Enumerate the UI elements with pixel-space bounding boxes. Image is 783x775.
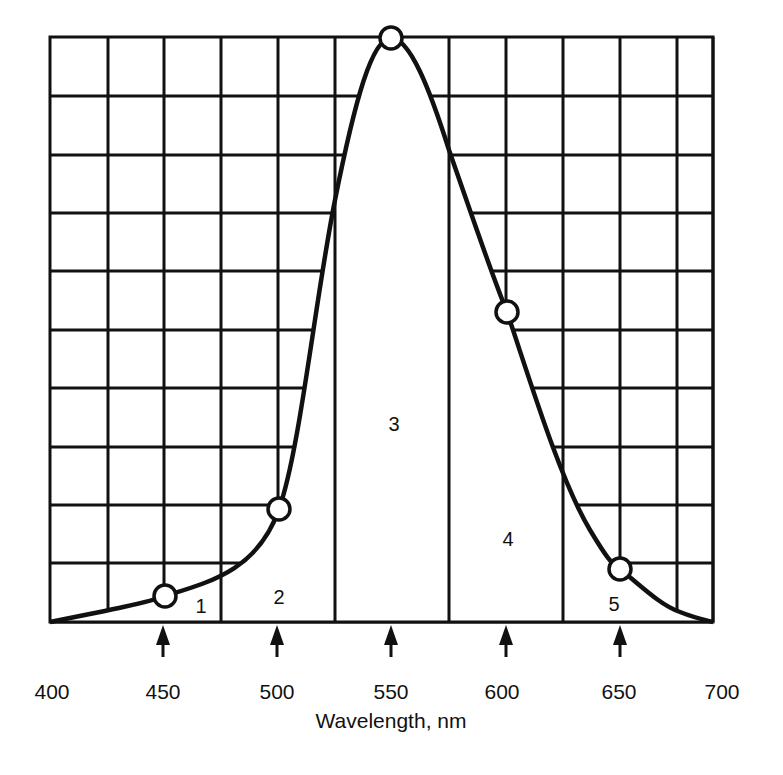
arrow-up-icon bbox=[156, 625, 170, 657]
x-tick-600: 600 bbox=[484, 680, 519, 704]
x-tick-700: 700 bbox=[704, 680, 739, 704]
region-label-4: 4 bbox=[502, 528, 513, 551]
marker-450 bbox=[154, 585, 176, 607]
x-tick-650: 650 bbox=[601, 680, 636, 704]
x-tick-550: 550 bbox=[373, 680, 408, 704]
marker-550 bbox=[380, 27, 402, 49]
region-label-5: 5 bbox=[608, 593, 619, 616]
arrow-up-icon bbox=[499, 625, 513, 657]
region-label-3: 3 bbox=[388, 413, 399, 436]
marker-500 bbox=[268, 498, 290, 520]
x-tick-400: 400 bbox=[34, 680, 69, 704]
marker-650 bbox=[609, 558, 631, 580]
region-label-1: 1 bbox=[195, 595, 206, 618]
marker-600 bbox=[496, 301, 518, 323]
x-tick-450: 450 bbox=[145, 680, 180, 704]
arrow-up-icon bbox=[384, 625, 398, 657]
arrow-up-icon bbox=[613, 625, 627, 657]
x-tick-500: 500 bbox=[259, 680, 294, 704]
chart-canvas bbox=[0, 0, 783, 775]
wavelength-arrows bbox=[156, 625, 627, 657]
region-label-2: 2 bbox=[273, 586, 284, 609]
x-axis-title: Wavelength, nm bbox=[316, 709, 467, 733]
arrow-up-icon bbox=[270, 625, 284, 657]
